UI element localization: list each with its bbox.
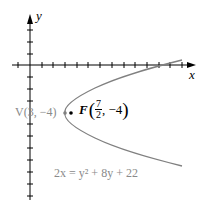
focus-y-value: , −4 [102,102,122,118]
focus-letter: F [79,102,88,118]
vertex-label: V(3, −4) [15,105,56,120]
focus-point [69,111,73,115]
y-axis-label: y [36,8,42,24]
equation-label: 2x = y² + 8y + 22 [54,166,138,181]
focus-x-fraction: 7 2 [95,99,102,120]
parabola-diagram: y x V(3, −4) F ( 7 2 , −4 ) 2x = y² + 8y… [0,0,203,211]
fraction-denominator: 2 [96,110,101,120]
vertex-point [63,111,67,115]
focus-label: F ( 7 2 , −4 ) [79,99,129,120]
x-axis-label: x [189,67,195,83]
